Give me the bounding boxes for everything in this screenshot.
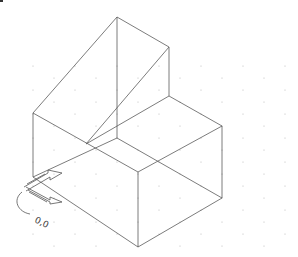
- grid-dot: [95, 77, 96, 78]
- grid-dot: [74, 137, 75, 138]
- grid-dot: [263, 101, 264, 102]
- grid-dot: [95, 221, 96, 222]
- grid-dot: [53, 173, 54, 174]
- model-edge[interactable]: [138, 126, 222, 172]
- model-edge[interactable]: [117, 138, 222, 198]
- grid-dot: [284, 209, 285, 210]
- model-edge[interactable]: [33, 138, 117, 177]
- grid-dot: [242, 209, 243, 210]
- grid-dot: [221, 101, 222, 102]
- grid-dot: [284, 89, 285, 90]
- grid-dot: [263, 221, 264, 222]
- grid-dot: [263, 149, 264, 150]
- grid-dot: [200, 65, 201, 66]
- grid-dot: [284, 65, 285, 66]
- grid-dot: [242, 185, 243, 186]
- grid-dot: [137, 101, 138, 102]
- grid-dot: [158, 137, 159, 138]
- grid-dot: [284, 137, 285, 138]
- grid-dot: [200, 161, 201, 162]
- grid-dot: [32, 89, 33, 90]
- grid-dot: [32, 233, 33, 234]
- grid-dot: [158, 185, 159, 186]
- grid-dot: [242, 161, 243, 162]
- grid-dot: [74, 89, 75, 90]
- drawing-viewport[interactable]: 0,0: [0, 0, 298, 257]
- grid-dot: [263, 197, 264, 198]
- grid-dot: [74, 185, 75, 186]
- grid-dot: [284, 113, 285, 114]
- grid-dot: [74, 233, 75, 234]
- grid-dot: [95, 173, 96, 174]
- grid-dot: [116, 185, 117, 186]
- grid-dot: [158, 113, 159, 114]
- grid-dot: [95, 101, 96, 102]
- grid-dot: [74, 161, 75, 162]
- grid-dot: [284, 161, 285, 162]
- grid-dot: [116, 209, 117, 210]
- model-edge[interactable]: [169, 96, 222, 126]
- grid-dot: [179, 77, 180, 78]
- grid-dot: [242, 137, 243, 138]
- grid-dot: [95, 149, 96, 150]
- grid-dot: [263, 245, 264, 246]
- grid-dot: [32, 65, 33, 66]
- model-edge[interactable]: [33, 17, 117, 113]
- grid-dot: [179, 125, 180, 126]
- model-edge[interactable]: [117, 17, 169, 47]
- model-edge[interactable]: [138, 198, 222, 247]
- grid-dot: [53, 101, 54, 102]
- grid-dot: [116, 161, 117, 162]
- grid-dot: [74, 209, 75, 210]
- grid-dot: [95, 125, 96, 126]
- ucs-origin-label: 0,0: [33, 215, 50, 230]
- grid-dot: [137, 77, 138, 78]
- grid-dot: [137, 125, 138, 126]
- grid-dot: [263, 173, 264, 174]
- grid-dot: [179, 197, 180, 198]
- grid-dot: [32, 209, 33, 210]
- grid-dot: [263, 125, 264, 126]
- grid-dot: [95, 245, 96, 246]
- grid-dot: [200, 233, 201, 234]
- grid-dot: [53, 149, 54, 150]
- grid-dot: [158, 89, 159, 90]
- grid-dot: [53, 245, 54, 246]
- grid-dot: [242, 89, 243, 90]
- grid-dot: [284, 185, 285, 186]
- grid-dot: [158, 209, 159, 210]
- grid-dot: [74, 113, 75, 114]
- grid-dot: [53, 221, 54, 222]
- grid-dot: [53, 77, 54, 78]
- grid-dot: [158, 65, 159, 66]
- model-edge[interactable]: [86, 96, 169, 144]
- grid-dot: [95, 197, 96, 198]
- grid-dot: [53, 125, 54, 126]
- grid-dots: [32, 65, 298, 246]
- grid-dot: [242, 65, 243, 66]
- grid-dot: [200, 89, 201, 90]
- grid-dot: [221, 245, 222, 246]
- grid-dot: [242, 113, 243, 114]
- grid-dot: [179, 245, 180, 246]
- model-edge[interactable]: [33, 113, 138, 172]
- grid-dot: [221, 221, 222, 222]
- model-edge[interactable]: [86, 47, 169, 144]
- model-wireframe[interactable]: [33, 17, 222, 247]
- grid-dot: [221, 77, 222, 78]
- grid-dot: [263, 77, 264, 78]
- grid-dot: [242, 233, 243, 234]
- grid-dot: [284, 233, 285, 234]
- model-edge[interactable]: [33, 177, 138, 247]
